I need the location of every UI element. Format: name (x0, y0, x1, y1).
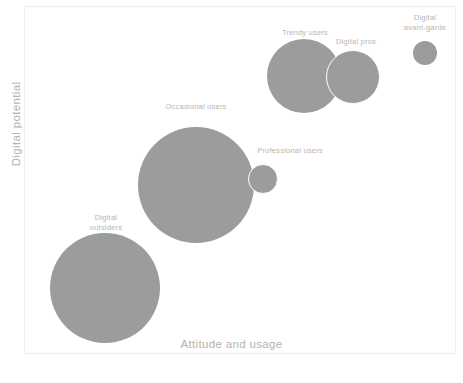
figure-footnote (24, 372, 444, 383)
bubble-digital-avant-garde[interactable] (413, 41, 437, 65)
bubble-digital-outsiders[interactable] (50, 233, 160, 343)
x-axis-title: Attitude and usage (0, 338, 463, 350)
bubble-digital-pros[interactable] (326, 50, 380, 104)
bubble-occasional-users[interactable] (138, 127, 254, 243)
y-axis-title: Digital potential (10, 64, 22, 184)
bubble-professional-users[interactable] (248, 164, 278, 194)
bubble-chart-figure: Digital outsiders Occasional users Profe… (0, 0, 463, 383)
